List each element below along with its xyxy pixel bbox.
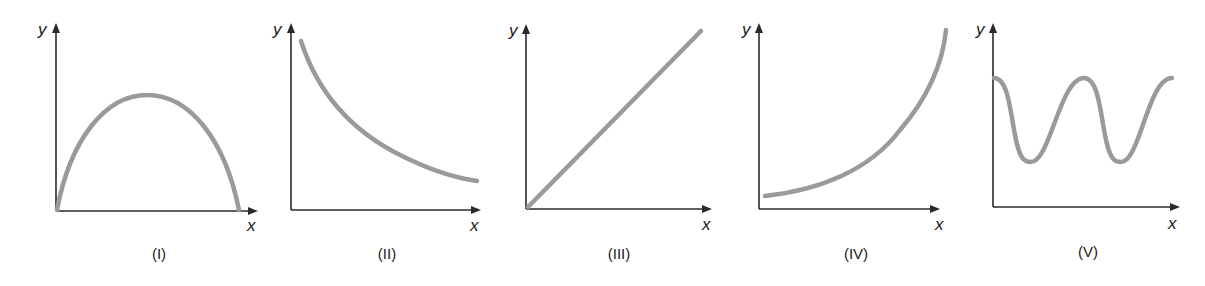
x-axis-label: x bbox=[246, 216, 256, 235]
curve-parabola bbox=[57, 95, 239, 210]
x-axis-label: x bbox=[701, 215, 711, 234]
panel-label: (II) bbox=[378, 245, 396, 262]
x-axis-arrow-icon bbox=[1170, 203, 1180, 211]
y-axis-label: y bbox=[37, 20, 48, 39]
y-axis-label: y bbox=[272, 20, 283, 39]
graph-panel-II: y x (II) bbox=[272, 20, 481, 262]
x-axis-arrow-icon bbox=[702, 205, 712, 213]
curve-decay bbox=[301, 41, 477, 181]
x-axis-arrow-icon bbox=[471, 206, 481, 214]
x-axis-arrow-icon bbox=[930, 205, 940, 213]
y-axis-arrow-icon bbox=[287, 23, 295, 33]
graph-panel-IV: y x (IV) bbox=[741, 20, 946, 262]
y-axis-arrow-icon bbox=[522, 24, 530, 34]
panel-label: (III) bbox=[608, 245, 631, 262]
five-graphs-figure: y x (I) y x (II) y x (III) y x (IV) bbox=[0, 0, 1205, 286]
curve-linear bbox=[528, 31, 701, 207]
panel-label: (I) bbox=[152, 245, 166, 262]
panel-label: (IV) bbox=[844, 245, 868, 262]
x-axis-arrow-icon bbox=[248, 207, 258, 215]
x-axis-label: x bbox=[934, 215, 944, 234]
curve-growth bbox=[765, 30, 946, 196]
y-axis-label: y bbox=[508, 21, 519, 40]
y-axis-label: y bbox=[975, 20, 986, 39]
graph-panel-I: y x (I) bbox=[37, 20, 258, 262]
graph-panel-V: y x (V) bbox=[975, 20, 1180, 260]
curve-wave bbox=[994, 78, 1172, 162]
y-axis-arrow-icon bbox=[989, 23, 997, 33]
x-axis-label: x bbox=[469, 216, 479, 235]
y-axis-label: y bbox=[741, 20, 752, 39]
panel-label: (V) bbox=[1078, 243, 1098, 260]
y-axis-arrow-icon bbox=[52, 23, 60, 33]
y-axis-arrow-icon bbox=[755, 23, 763, 33]
x-axis-label: x bbox=[1167, 214, 1177, 233]
graph-panel-III: y x (III) bbox=[508, 21, 712, 262]
